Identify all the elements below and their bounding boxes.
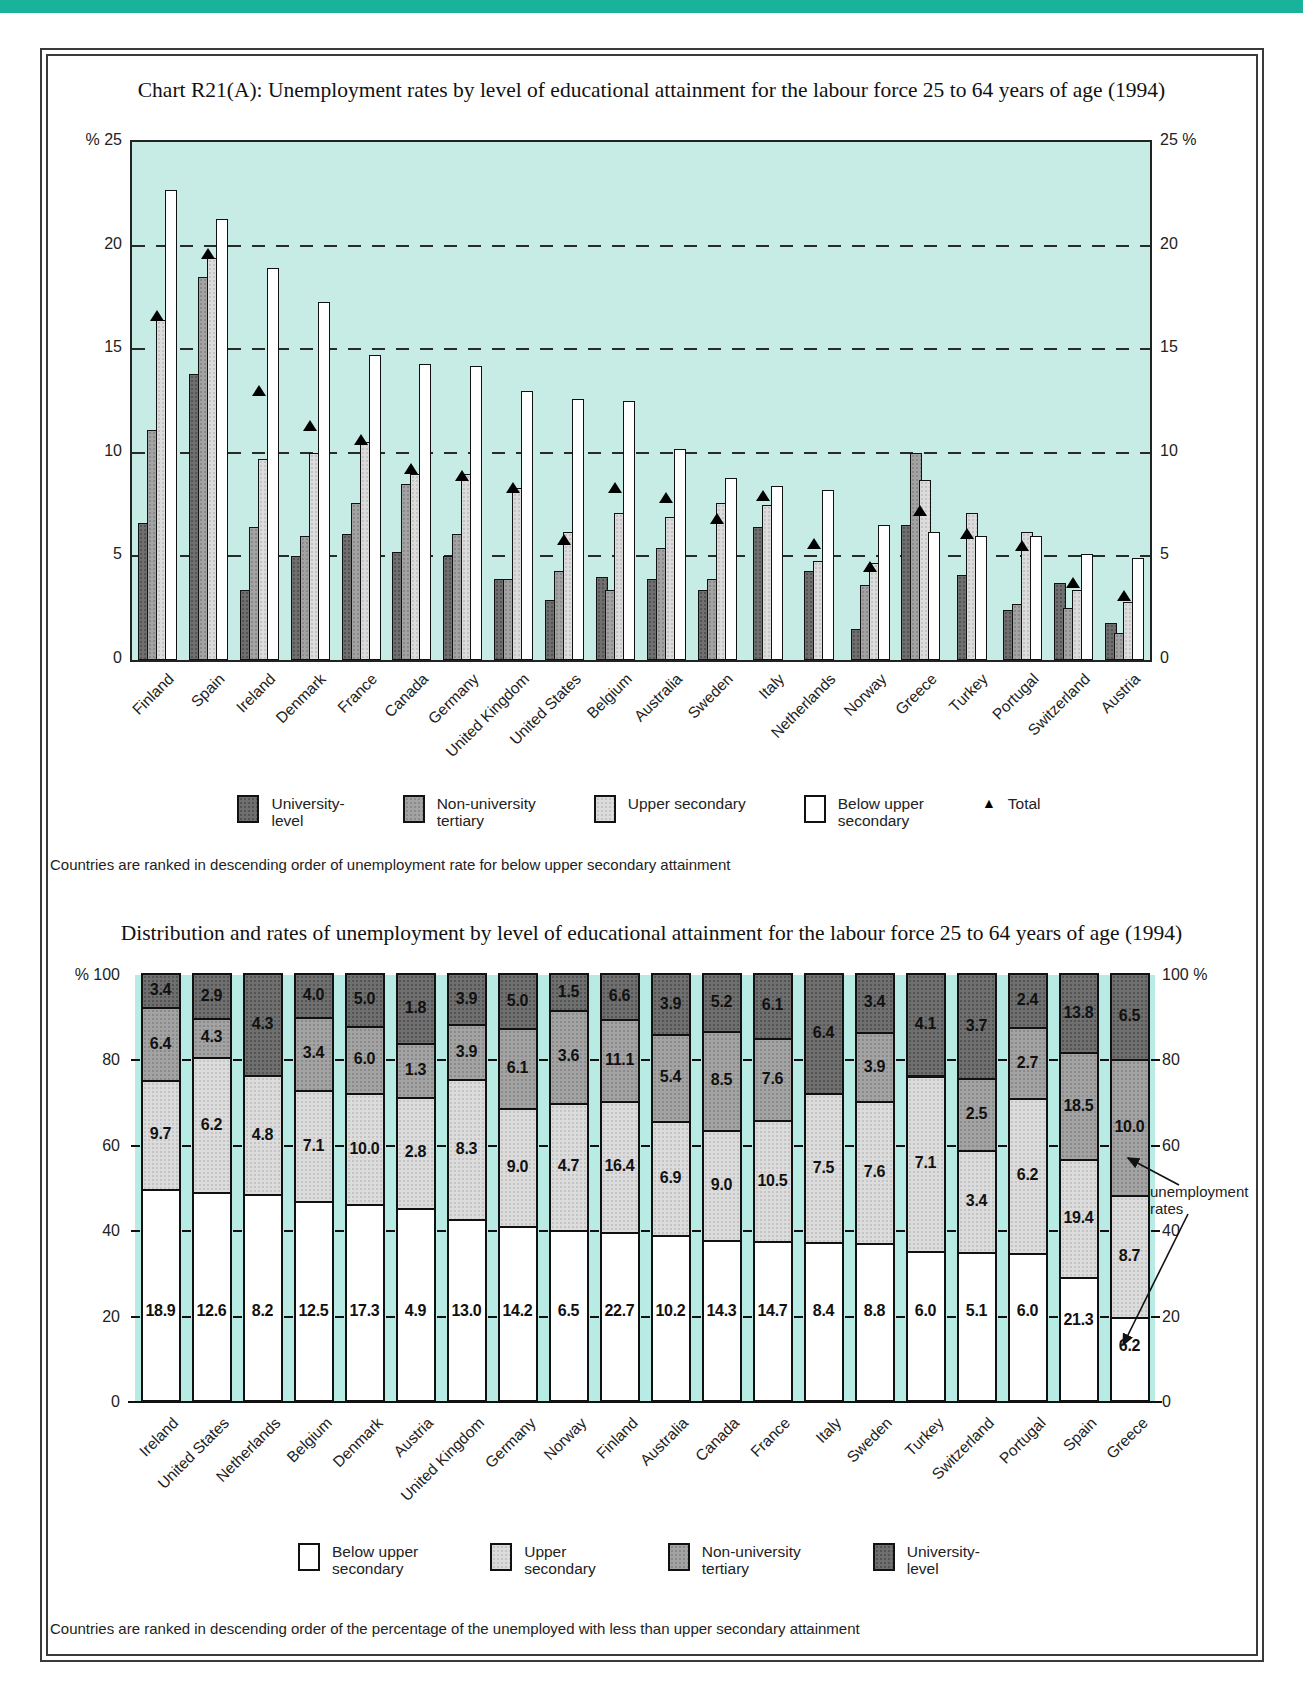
gap-tick	[845, 1230, 854, 1232]
total-marker-germany	[455, 470, 469, 481]
gap-tick	[488, 1145, 497, 1147]
legend2-label-non_university: Non-university tertiary	[702, 1543, 801, 1577]
legend1-item-non_university: Non-university tertiary	[403, 795, 536, 829]
gap-tick	[131, 1316, 140, 1318]
segment-norway-university-level: 1.5	[549, 973, 589, 1012]
segment-australia-below-upper-secondary: 10.2	[651, 1235, 691, 1402]
segment-ireland-upper-secondary: 9.7	[141, 1080, 181, 1190]
rate-label: 6.6	[596, 987, 644, 1005]
rate-label: 6.0	[1004, 1302, 1052, 1320]
rate-label: 5.0	[341, 990, 389, 1008]
bar-australia-b	[674, 449, 686, 660]
gridline-10	[132, 452, 1150, 454]
bar-united-states-b	[572, 399, 584, 660]
gap-tick	[488, 1059, 497, 1061]
chart2-ytick-right-60: 60	[1162, 1137, 1180, 1155]
rate-label: 6.0	[341, 1050, 389, 1068]
gap-tick	[386, 1145, 395, 1147]
chart1-footnote: Countries are ranked in descending order…	[50, 856, 730, 873]
chart2-title: Distribution and rates of unemployment b…	[60, 921, 1243, 946]
gap-tick	[743, 1230, 752, 1232]
segment-belgium-non-university-tertiary: 3.4	[294, 1017, 334, 1092]
segment-denmark-non-university-tertiary: 6.0	[345, 1026, 385, 1095]
gap-tick	[1100, 1059, 1109, 1061]
bar-switzerland-b	[1081, 554, 1093, 660]
segment-turkey-upper-secondary: 7.1	[906, 1076, 946, 1253]
segment-australia-non-university-tertiary: 5.4	[651, 1034, 691, 1123]
segment-finland-non-university-tertiary: 11.1	[600, 1019, 640, 1103]
rate-label: 4.3	[239, 1015, 287, 1033]
rate-label: 11.1	[596, 1051, 644, 1069]
segment-netherlands-university-level: 4.3	[243, 973, 283, 1077]
chart2-ytick-right-20: 20	[1162, 1308, 1180, 1326]
segment-sweden-non-university-tertiary: 3.9	[855, 1032, 895, 1103]
segment-spain-non-university-tertiary: 18.5	[1059, 1052, 1099, 1161]
segment-italy-below-upper-secondary: 8.4	[804, 1242, 844, 1402]
rate-label: 10.5	[749, 1172, 797, 1190]
legend2-label-upper_secondary: Upper secondary	[524, 1543, 596, 1577]
gap-tick	[335, 1230, 344, 1232]
gap-tick	[998, 1230, 1007, 1232]
rate-label: 7.6	[851, 1163, 899, 1181]
segment-france-below-upper-secondary: 14.7	[753, 1241, 793, 1402]
total-marker-belgium	[608, 482, 622, 493]
gap-tick	[335, 1145, 344, 1147]
gap-tick	[998, 1145, 1007, 1147]
gap-tick	[692, 1230, 701, 1232]
chart2-ytick-left-0: 0	[60, 1393, 120, 1411]
segment-finland-university-level: 6.6	[600, 973, 640, 1021]
gap-tick	[182, 1230, 191, 1232]
rate-label: 7.6	[749, 1070, 797, 1088]
segment-germany-upper-secondary: 9.0	[498, 1108, 538, 1228]
segment-austria-university-level: 1.8	[396, 973, 436, 1045]
rate-label: 18.5	[1055, 1097, 1103, 1115]
total-marker-netherlands	[807, 538, 821, 549]
university-swatch-icon	[873, 1543, 895, 1571]
bar-greece-b	[928, 532, 940, 660]
page-header-band	[0, 0, 1303, 13]
segment-italy-upper-secondary: 7.5	[804, 1093, 844, 1244]
gap-tick	[947, 1316, 956, 1318]
chart2-ytick-left-40: 40	[60, 1222, 120, 1240]
chart1-ytick-right-10: 10	[1160, 442, 1178, 460]
rate-label: 19.4	[1055, 1209, 1103, 1227]
chart2-footnote: Countries are ranked in descending order…	[50, 1620, 860, 1637]
chart2-ytick-left-80: 80	[60, 1051, 120, 1069]
segment-canada-upper-secondary: 9.0	[702, 1130, 742, 1242]
gap-tick	[284, 1145, 293, 1147]
segment-turkey-below-upper-secondary: 6.0	[906, 1251, 946, 1402]
gap-tick	[233, 1316, 242, 1318]
rate-label: 4.1	[902, 1015, 950, 1033]
rate-label: 7.1	[902, 1154, 950, 1172]
segment-portugal-upper-secondary: 6.2	[1008, 1098, 1048, 1255]
segment-united-states-below-upper-secondary: 12.6	[192, 1192, 232, 1402]
rate-label: 3.4	[290, 1044, 338, 1062]
segment-netherlands-below-upper-secondary: 8.2	[243, 1194, 283, 1402]
gap-tick	[437, 1145, 446, 1147]
gap-tick	[794, 1145, 803, 1147]
gap-tick	[692, 1316, 701, 1318]
gap-tick	[896, 1145, 905, 1147]
rate-label: 10.2	[647, 1302, 695, 1320]
gap-tick	[386, 1230, 395, 1232]
gap-tick	[641, 1230, 650, 1232]
rate-label: 4.3	[188, 1028, 236, 1046]
rate-label: 10.0	[341, 1140, 389, 1158]
rate-label: 22.7	[596, 1302, 644, 1320]
gap-tick	[590, 1145, 599, 1147]
legend1-item-university: University- level	[237, 795, 344, 829]
segment-germany-university-level: 5.0	[498, 973, 538, 1030]
total-marker-france	[354, 434, 368, 445]
total-marker-finland	[150, 310, 164, 321]
rate-label: 1.3	[392, 1061, 440, 1079]
gap-tick	[131, 1145, 140, 1147]
gridline-20	[132, 245, 1150, 247]
segment-denmark-below-upper-secondary: 17.3	[345, 1204, 385, 1402]
gap-tick	[1100, 1145, 1109, 1147]
bar-sweden-b	[725, 478, 737, 660]
rate-label: 8.2	[239, 1302, 287, 1320]
rate-label: 14.2	[494, 1302, 542, 1320]
segment-norway-below-upper-secondary: 6.5	[549, 1230, 589, 1402]
chart2-ytick-right-0: 0	[1162, 1393, 1171, 1411]
rate-label: 2.8	[392, 1143, 440, 1161]
